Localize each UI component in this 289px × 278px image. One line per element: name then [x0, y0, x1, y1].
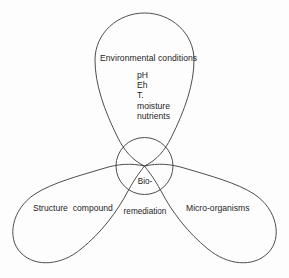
factor-item-nutrients: nutrients [137, 111, 170, 121]
center-label-bio-remediation: Bio- remediation [120, 157, 170, 237]
environmental-factor-list: pH Eh T. moisture nutrients [137, 70, 170, 121]
center-label-line-2: remediation [120, 207, 170, 217]
bioremediation-diagram: Environmental conditions pH Eh T. moistu… [0, 0, 289, 278]
lobe-label-structure-compound: Structure compound [33, 203, 113, 213]
factor-item-eh: Eh [137, 80, 170, 90]
factor-item-ph: pH [137, 70, 170, 80]
center-label-line-1: Bio- [120, 177, 170, 187]
factor-item-temperature: T. [137, 90, 170, 100]
factor-item-moisture: moisture [137, 101, 170, 111]
lobe-label-micro-organisms: Micro-organisms [186, 203, 250, 213]
lobe-label-environmental-conditions: Environmental conditions [100, 53, 197, 63]
